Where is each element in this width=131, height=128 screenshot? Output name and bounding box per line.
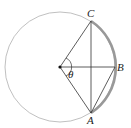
label-b: B [117,61,124,73]
radius-oa [60,67,91,113]
circle-diagram: C B A θ [0,0,131,128]
label-theta: θ [68,68,74,80]
label-c: C [87,7,95,19]
radius-oc [60,21,91,67]
center-point [58,65,61,68]
label-a: A [86,114,94,126]
